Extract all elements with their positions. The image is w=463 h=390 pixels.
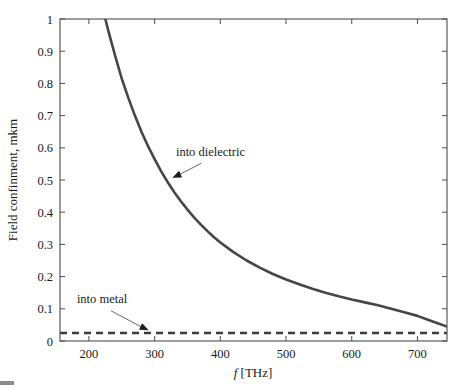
y-tick-label-0: 0 [47,335,53,349]
annotation-label-into-dielectric: into dielectric [176,145,246,159]
y-tick-label-0.4: 0.4 [37,206,53,220]
x-tick-label-300: 300 [145,347,164,361]
y-axis-tick-labels: 00.10.20.30.40.50.60.70.80.91 [37,13,53,349]
x-axis-label: f [THz] [234,365,273,380]
page-scan-artifact [0,381,14,385]
x-axis-tick-labels: 200300400500600700 [80,347,427,361]
field-confinement-chart: 200300400500600700 00.10.20.30.40.50.60.… [0,0,463,390]
y-axis-label: Field confinment, mkm [5,119,20,241]
y-tick-label-0.2: 0.2 [37,270,53,284]
x-tick-label-500: 500 [277,347,296,361]
x-tick-label-400: 400 [211,347,230,361]
y-tick-label-0.8: 0.8 [37,77,53,91]
y-tick-label-0.7: 0.7 [37,109,53,123]
figure-container: 200300400500600700 00.10.20.30.40.50.60.… [0,0,463,390]
x-tick-label-200: 200 [80,347,99,361]
y-tick-label-0.9: 0.9 [37,45,53,59]
y-tick-label-1: 1 [47,13,53,27]
y-tick-label-0.6: 0.6 [37,141,53,155]
x-tick-label-700: 700 [408,347,427,361]
y-tick-label-0.1: 0.1 [37,302,53,316]
x-axis-label-unit: [THz] [237,365,272,380]
annotation-label-into-metal: into metal [77,292,128,306]
x-tick-label-600: 600 [342,347,361,361]
y-tick-label-0.5: 0.5 [37,174,53,188]
y-tick-label-0.3: 0.3 [37,238,53,252]
